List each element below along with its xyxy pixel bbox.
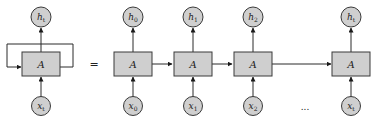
ellipsis: ... [301,102,310,112]
equals-sign: = [89,58,98,71]
cell-label: A [346,59,354,70]
unrolled-step-2: A h2 x2 [234,7,272,116]
unrolled-step-1: A h1 x1 [174,7,212,116]
rolled-cell-label: A [36,59,44,70]
unrolled-step-0: A h0 x0 [114,7,152,116]
unrolled-step-t: A ht xt [332,7,370,116]
rnn-diagram: A ht xt = A h0 x0 A [0,0,372,126]
rolled-rnn: A ht xt [7,7,73,116]
cell-label: A [128,59,136,70]
cell-label: A [188,59,196,70]
cell-label: A [248,59,256,70]
